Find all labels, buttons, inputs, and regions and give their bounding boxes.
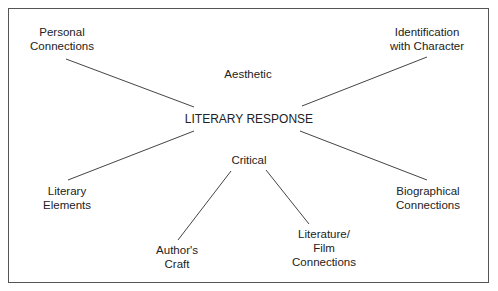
node-personal-connections: Personal Connections [30, 25, 94, 53]
node-biographical-connections: Biographical Connections [396, 184, 460, 212]
line-personal [66, 59, 194, 107]
stance-critical: Critical [231, 153, 266, 167]
center-literary-response: LITERARY RESPONSE [185, 112, 313, 126]
node-identification-with-character: Identification with Character [390, 25, 464, 53]
node-authors-craft: Author's Craft [156, 243, 198, 271]
node-literature-film-connections: Literature/ Film Connections [292, 227, 356, 269]
line-literary-elements [68, 131, 194, 180]
line-biographical [300, 131, 427, 180]
line-lit-film [266, 170, 309, 224]
stance-aesthetic: Aesthetic [224, 67, 271, 81]
line-identification [302, 57, 427, 106]
line-authors-craft [178, 171, 231, 240]
node-literary-elements: Literary Elements [43, 184, 91, 212]
